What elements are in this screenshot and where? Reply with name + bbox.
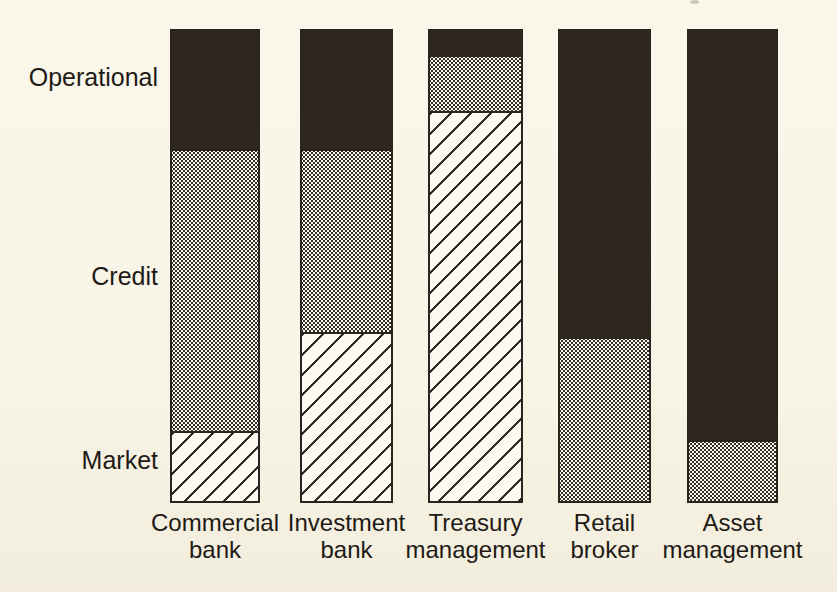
bar-investment-bank xyxy=(300,29,393,503)
segment-credit-asset-management xyxy=(689,440,776,501)
segment-operational-investment-bank xyxy=(302,31,391,149)
bar-asset-management xyxy=(687,29,778,503)
bar-treasury-management xyxy=(428,29,523,503)
segment-operational-commercial-bank xyxy=(172,31,258,149)
segment-market-treasury-management xyxy=(430,111,521,501)
segment-credit-retail-broker xyxy=(560,337,649,502)
segment-operational-treasury-management xyxy=(430,31,521,55)
segment-credit-investment-bank xyxy=(302,149,391,332)
segment-operational-retail-broker xyxy=(560,31,649,337)
bar-retail-broker xyxy=(558,29,651,503)
scan-speck xyxy=(690,0,699,4)
series-label-market: Market xyxy=(82,446,158,475)
category-label-line: management xyxy=(638,536,828,563)
segment-credit-treasury-management xyxy=(430,55,521,111)
category-label-line: Asset xyxy=(638,509,828,536)
bar-commercial-bank xyxy=(170,29,260,503)
segment-market-investment-bank xyxy=(302,332,391,501)
segment-operational-asset-management xyxy=(689,31,776,440)
segment-market-commercial-bank xyxy=(172,431,258,502)
series-label-operational: Operational xyxy=(29,63,158,92)
segment-credit-commercial-bank xyxy=(172,149,258,431)
series-label-credit: Credit xyxy=(91,262,158,291)
figure-canvas: Operational Credit Market Commercialbank… xyxy=(0,0,837,592)
category-label-asset-management: Assetmanagement xyxy=(638,509,828,563)
